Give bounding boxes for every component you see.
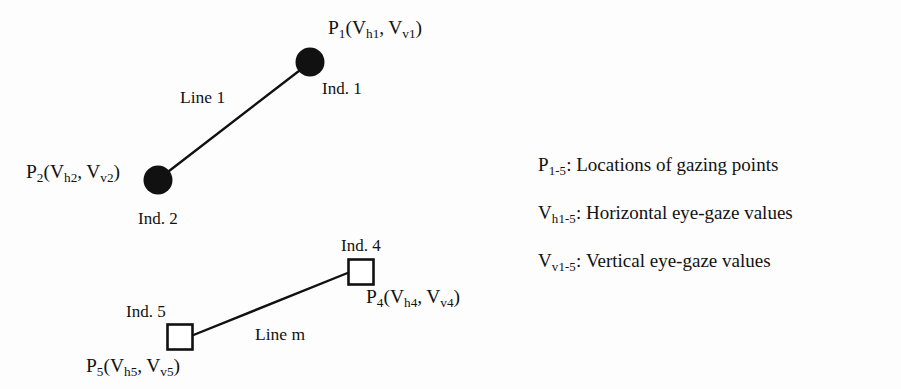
legend-separator-1: : (576, 202, 586, 223)
legend-item-vertical: Vv1-5: Vertical eye-gaze values (538, 251, 771, 270)
marker-p4-open-square (349, 260, 374, 285)
figure-canvas: P1(Vh1,Vv1) Ind. 1 Line 1 P2(Vh2,Vv2) In… (0, 0, 901, 389)
individual-label-ind-5: Ind. 5 (126, 303, 166, 320)
legend-description-2: Vertical eye-gaze values (586, 250, 771, 271)
individual-label-ind-4: Ind. 4 (341, 237, 381, 254)
legend-item-locations: P1-5: Locations of gazing points (538, 155, 778, 174)
legend-description-1: Horizontal eye-gaze values (586, 202, 793, 223)
point-label-p4: P4(Vh4,Vv4) (366, 287, 460, 307)
individual-label-ind-2: Ind. 2 (138, 210, 178, 227)
legend-separator-0: : (566, 154, 576, 175)
p5-coords: (Vh5,Vv5) (103, 355, 180, 376)
line-1-segment (160, 64, 308, 178)
legend-symbol-vv: Vv1-5 (538, 250, 576, 271)
legend-symbol-vh: Vh1-5 (538, 202, 576, 223)
p1-coords: (Vh1,Vv1) (345, 17, 422, 38)
p1-symbol: P1 (328, 17, 345, 38)
legend-description-0: Locations of gazing points (576, 154, 778, 175)
individual-label-ind-1: Ind. 1 (322, 80, 362, 97)
line-label-line-m: Line m (255, 326, 305, 344)
marker-p1-filled-circle (296, 48, 325, 77)
legend-separator-2: : (576, 250, 586, 271)
marker-p5-open-square (168, 325, 193, 350)
point-label-p1: P1(Vh1,Vv1) (328, 18, 422, 38)
point-label-p5: P5(Vh5,Vv5) (86, 356, 180, 376)
diagram-svg (0, 0, 901, 389)
marker-p2-filled-circle (144, 166, 173, 195)
p2-coords: (Vh2,Vv2) (43, 161, 120, 182)
line-label-line-1: Line 1 (180, 89, 225, 107)
p2-symbol: P2 (26, 161, 43, 182)
p5-symbol: P5 (86, 355, 103, 376)
legend-symbol-p: P1-5 (538, 154, 566, 175)
p4-coords: (Vh4,Vv4) (383, 286, 460, 307)
point-label-p2: P2(Vh2,Vv2) (26, 162, 120, 182)
p4-symbol: P4 (366, 286, 383, 307)
legend-item-horizontal: Vh1-5: Horizontal eye-gaze values (538, 203, 793, 222)
